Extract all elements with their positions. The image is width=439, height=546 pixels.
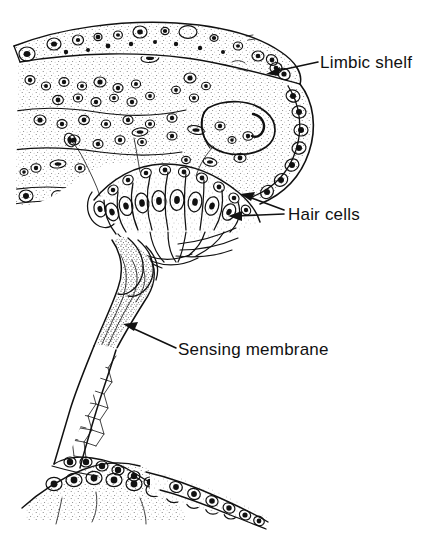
sensing-membrane-lower <box>54 346 152 470</box>
leader-sensing-membrane <box>123 322 176 348</box>
label-sensing-membrane: Sensing membrane <box>178 340 329 359</box>
label-hair-cells: Hair cells <box>288 205 360 224</box>
figure-root: Limbic shelf Hair cells Sensing membrane <box>0 0 439 546</box>
label-limbic-shelf: Limbic shelf <box>320 53 412 72</box>
sensing-membrane-upper <box>92 236 158 350</box>
anatomical-drawing: Limbic shelf Hair cells Sensing membrane <box>0 0 439 546</box>
